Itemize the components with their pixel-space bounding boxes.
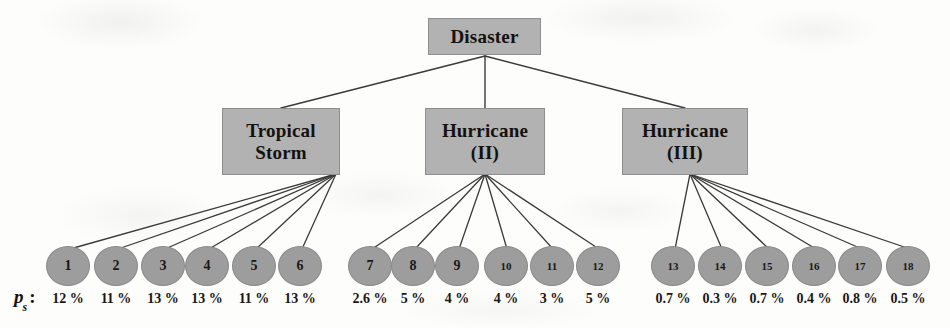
edge-root-to-tropical-storm <box>281 56 485 108</box>
leaf-node-label: 10 <box>501 260 512 272</box>
node-disaster-label: Disaster <box>446 26 522 47</box>
leaf-node-label: 1 <box>65 258 72 274</box>
leaf-node-label: 5 <box>251 258 258 274</box>
probability-label-18: 0.5 % <box>880 291 936 307</box>
tropical-storm-edges <box>70 174 336 249</box>
edge-hurricane-2-to-leaf-7 <box>372 174 485 249</box>
leaf-node-17[interactable]: 17 <box>838 246 882 286</box>
edge-hurricane-3-to-leaf-18 <box>690 174 910 249</box>
node-tropical-storm-label: Tropical Storm <box>242 120 320 163</box>
edge-hurricane-3-to-leaf-13 <box>675 174 690 249</box>
edge-tropical-storm-to-leaf-6 <box>302 174 336 249</box>
probability-label-6: 13 % <box>272 291 328 307</box>
leaf-node-3[interactable]: 3 <box>141 246 185 286</box>
leaf-node-8[interactable]: 8 <box>391 246 435 286</box>
leaf-node-5[interactable]: 5 <box>232 246 276 286</box>
leaf-node-15[interactable]: 15 <box>745 246 789 286</box>
leaf-node-label: 16 <box>809 260 820 272</box>
node-tropical-storm[interactable]: Tropical Storm <box>222 108 340 175</box>
hurricane-2-edges <box>372 174 599 249</box>
edge-hurricane-3-to-leaf-15 <box>690 174 769 249</box>
edge-hurricane-2-to-leaf-8 <box>415 174 485 249</box>
edge-hurricane-2-to-leaf-9 <box>459 174 485 249</box>
probability-label-9: 4 % <box>429 291 485 307</box>
leaf-node-label: 3 <box>160 258 167 274</box>
leaf-node-9[interactable]: 9 <box>435 246 479 286</box>
node-hurricane-3-label: Hurricane (III) <box>638 120 732 163</box>
node-disaster[interactable]: Disaster <box>428 18 541 55</box>
leaf-node-label: 6 <box>297 258 304 274</box>
leaf-node-label: 2 <box>113 258 120 274</box>
hurricane-3-edges <box>675 174 910 249</box>
root-edges <box>281 56 685 108</box>
leaf-node-14[interactable]: 14 <box>698 246 742 286</box>
leaf-node-12[interactable]: 12 <box>576 246 620 286</box>
leaf-node-label: 17 <box>855 260 866 272</box>
edge-tropical-storm-to-leaf-3 <box>165 174 336 249</box>
edge-hurricane-3-to-leaf-17 <box>690 174 862 249</box>
leaf-node-11[interactable]: 11 <box>530 246 574 286</box>
node-hurricane-2[interactable]: Hurricane (II) <box>425 108 545 175</box>
leaf-node-label: 18 <box>903 260 914 272</box>
leaf-node-4[interactable]: 4 <box>185 246 229 286</box>
diagram-canvas: Disaster Tropical Storm Hurricane (II) H… <box>0 0 950 328</box>
ps-subscript: s <box>23 300 28 314</box>
ps-colon: : <box>29 286 35 307</box>
leaf-node-label: 13 <box>668 260 679 272</box>
leaf-node-10[interactable]: 10 <box>484 246 528 286</box>
node-hurricane-3[interactable]: Hurricane (III) <box>622 108 748 175</box>
leaf-node-16[interactable]: 16 <box>792 246 836 286</box>
leaf-node-label: 9 <box>454 258 461 274</box>
leaf-node-label: 7 <box>367 258 374 274</box>
leaf-node-1[interactable]: 1 <box>46 246 90 286</box>
probability-label-12: 5 % <box>570 291 626 307</box>
leaf-node-label: 14 <box>715 260 726 272</box>
leaf-node-label: 15 <box>762 260 773 272</box>
leaf-node-label: 12 <box>593 260 604 272</box>
leaf-node-label: 4 <box>204 258 211 274</box>
leaf-node-13[interactable]: 13 <box>651 246 695 286</box>
leaf-node-2[interactable]: 2 <box>94 246 138 286</box>
leaf-node-label: 11 <box>547 260 557 272</box>
leaf-node-label: 8 <box>410 258 417 274</box>
leaf-node-7[interactable]: 7 <box>348 246 392 286</box>
edge-hurricane-3-to-leaf-16 <box>690 174 816 249</box>
ps-axis-label: ps: <box>14 286 36 312</box>
leaf-node-6[interactable]: 6 <box>278 246 322 286</box>
node-hurricane-2-label: Hurricane (II) <box>438 120 532 163</box>
edge-root-to-hurricane-3 <box>485 56 685 108</box>
leaf-node-18[interactable]: 18 <box>886 246 930 286</box>
